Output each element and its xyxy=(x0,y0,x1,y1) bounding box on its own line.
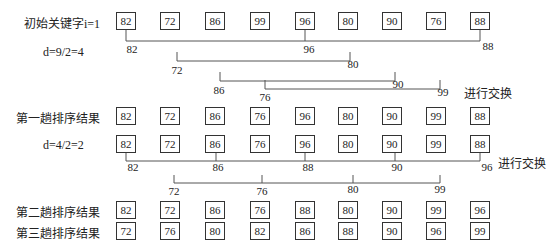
group-value: 82 xyxy=(127,43,138,55)
key-box: 86 xyxy=(205,107,225,125)
key-box: 76 xyxy=(250,135,270,153)
key-box: 88 xyxy=(470,135,490,153)
key-box: 82 xyxy=(116,201,136,219)
label-pass3: 第三趟排序结果 xyxy=(16,224,100,242)
key-box: 76 xyxy=(426,12,446,30)
group-value: 80 xyxy=(348,58,359,70)
key-box: 76 xyxy=(250,107,270,125)
group-value: 80 xyxy=(348,183,359,195)
key-box: 99 xyxy=(426,107,446,125)
key-box: 96 xyxy=(470,201,490,219)
key-box: 88 xyxy=(470,107,490,125)
key-box: 76 xyxy=(160,222,180,240)
key-box: 72 xyxy=(160,107,180,125)
label-pass1: 第一趟排序结果 xyxy=(16,109,100,127)
key-box: 90 xyxy=(382,12,402,30)
group-value: 99 xyxy=(435,183,446,195)
key-box: 72 xyxy=(160,135,180,153)
key-box: 88 xyxy=(295,201,315,219)
key-box: 90 xyxy=(382,107,402,125)
label-d2: d=4/2=2 xyxy=(43,138,84,153)
key-box: 80 xyxy=(338,135,358,153)
key-box: 80 xyxy=(338,107,358,125)
key-box: 99 xyxy=(426,201,446,219)
key-box: 82 xyxy=(116,107,136,125)
key-box: 88 xyxy=(338,222,358,240)
key-box: 86 xyxy=(295,222,315,240)
group-value: 72 xyxy=(172,64,183,76)
label-swap1: 进行交换 xyxy=(464,84,512,102)
group-value: 86 xyxy=(213,161,224,173)
key-box: 76 xyxy=(250,201,270,219)
key-box: 96 xyxy=(295,107,315,125)
key-box: 96 xyxy=(295,135,315,153)
key-box: 90 xyxy=(382,222,402,240)
group-value: 86 xyxy=(214,84,225,96)
group-value: 76 xyxy=(260,91,271,103)
group-value: 90 xyxy=(393,78,404,90)
group-value: 82 xyxy=(128,161,139,173)
key-box: 99 xyxy=(250,12,270,30)
key-box: 88 xyxy=(470,12,490,30)
key-box: 99 xyxy=(470,222,490,240)
group-value: 72 xyxy=(169,185,180,197)
key-box: 86 xyxy=(205,201,225,219)
key-box: 80 xyxy=(205,222,225,240)
key-box: 86 xyxy=(205,135,225,153)
key-box: 96 xyxy=(295,12,315,30)
group-value: 96 xyxy=(482,161,493,173)
label-swap2: 进行交换 xyxy=(498,154,546,172)
key-box: 80 xyxy=(338,201,358,219)
group-value: 88 xyxy=(303,161,314,173)
key-box: 72 xyxy=(160,201,180,219)
key-box: 90 xyxy=(382,201,402,219)
group-value: 90 xyxy=(392,161,403,173)
key-box: 72 xyxy=(116,222,136,240)
key-box: 99 xyxy=(426,135,446,153)
label-pass2: 第二趟排序结果 xyxy=(16,203,100,221)
key-box: 80 xyxy=(338,12,358,30)
key-box: 72 xyxy=(160,12,180,30)
group-value: 88 xyxy=(483,40,494,52)
label-d1: d=9/2=4 xyxy=(43,45,84,60)
key-box: 90 xyxy=(382,135,402,153)
key-box: 82 xyxy=(250,222,270,240)
group-value: 99 xyxy=(438,86,449,98)
key-box: 96 xyxy=(426,222,446,240)
key-box: 86 xyxy=(205,12,225,30)
label-initial: 初始关键字i=1 xyxy=(24,14,100,32)
group-value: 76 xyxy=(257,185,268,197)
key-box: 82 xyxy=(116,12,136,30)
group-value: 96 xyxy=(304,43,315,55)
key-box: 82 xyxy=(116,135,136,153)
